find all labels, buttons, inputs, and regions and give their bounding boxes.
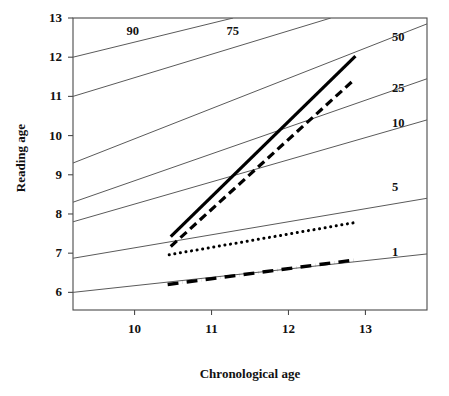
x-axis-title: Chronological age <box>150 366 350 382</box>
y-tick-label-7: 7 <box>40 245 62 261</box>
percentile-label-25: 25 <box>392 81 405 96</box>
x-tick-label-13: 13 <box>352 321 378 337</box>
x-tick-label-12: 12 <box>275 321 301 337</box>
plot-frame <box>73 18 427 310</box>
percentile-label-1: 1 <box>392 245 398 260</box>
percentile-label-90: 90 <box>127 24 140 39</box>
percentile-label-10: 10 <box>392 116 405 131</box>
x-tick-label-11: 11 <box>199 321 225 337</box>
y-tick-label-6: 6 <box>40 284 62 300</box>
y-axis-title: Reading age <box>13 113 29 203</box>
percentile-label-5: 5 <box>392 180 398 195</box>
percentile-label-50: 50 <box>392 30 405 45</box>
x-tick-label-10: 10 <box>122 321 148 337</box>
y-tick-label-8: 8 <box>40 206 62 222</box>
y-tick-label-13: 13 <box>40 10 62 26</box>
y-tick-label-10: 10 <box>40 128 62 144</box>
percentile-label-75: 75 <box>227 24 240 39</box>
chart-figure: 678910111213 10111213 907550251051 Readi… <box>0 0 449 396</box>
y-tick-label-11: 11 <box>40 88 62 104</box>
y-tick-label-9: 9 <box>40 167 62 183</box>
y-tick-label-12: 12 <box>40 49 62 65</box>
